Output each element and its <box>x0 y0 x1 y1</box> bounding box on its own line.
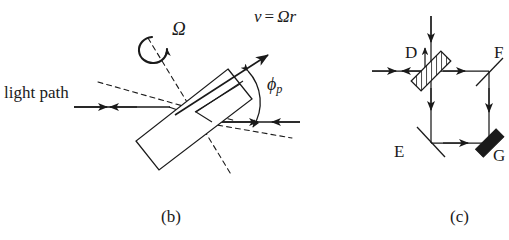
label-D: D <box>405 44 417 61</box>
optics-figure: light path Ω v=Ωr ϕp (b) D F E G (c) <box>0 0 509 240</box>
panel-b-caption: (b) <box>161 208 181 225</box>
velocity-v-symbol: v <box>254 7 262 26</box>
phi-symbol: ϕ <box>267 74 276 94</box>
omega-label: Ω <box>172 19 186 38</box>
figure-vector-canvas <box>0 0 509 240</box>
label-F: F <box>494 44 503 61</box>
phi-subscript: p <box>276 82 282 96</box>
label-E: E <box>394 143 404 160</box>
light-path-label: light path <box>4 84 69 101</box>
omega-r-expression: Ωr <box>277 7 296 26</box>
panel-b-graphics <box>74 37 300 176</box>
label-G: G <box>493 147 505 164</box>
panel-c-graphics <box>372 16 504 157</box>
phi-p-label: ϕp <box>267 75 282 96</box>
equals-sign: = <box>262 7 278 26</box>
rotating-plate <box>136 69 252 170</box>
velocity-equation-label: v=Ωr <box>254 8 296 25</box>
panel-c-caption: (c) <box>450 208 469 225</box>
rotation-arrow <box>139 37 167 63</box>
